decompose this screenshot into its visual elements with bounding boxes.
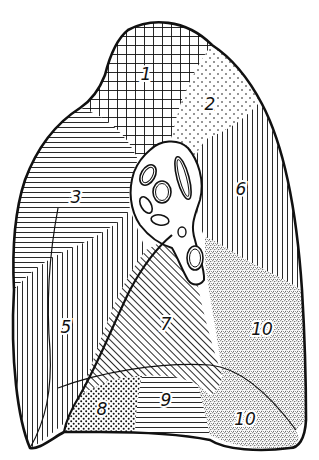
segment-label-10-upper: 10 [251,319,273,339]
segment-label-6: 6 [236,179,247,199]
lung-segment-diagram: 1 2 3 5 6 7 8 9 10 10 [0,0,319,460]
segment-label-5: 5 [61,317,72,337]
segment-label-2: 2 [205,94,216,114]
segment-label-8: 8 [97,399,108,419]
segment-label-7: 7 [161,314,172,334]
lung-illustration: 1 2 3 5 6 7 8 9 10 10 [0,0,319,460]
segment-label-1: 1 [141,64,152,84]
segment-label-10-lower: 10 [234,409,256,429]
segment-label-9: 9 [161,390,172,410]
segment-label-3: 3 [71,187,82,207]
